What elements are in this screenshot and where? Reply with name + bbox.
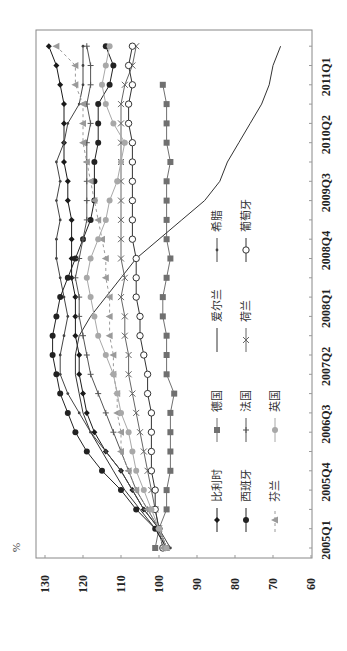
legend: 比利时德国爱尔兰希腊西班牙法国荷兰葡萄牙芬兰英国 <box>210 199 281 532</box>
x-tick-label: 2007Q2 <box>319 347 333 386</box>
series-1 <box>152 82 177 551</box>
legend-label: 英国 <box>268 390 281 412</box>
y-tick-label: 120 <box>76 575 90 593</box>
legend-item: 西班牙 <box>240 469 252 532</box>
legend-label: 葡萄牙 <box>240 199 252 232</box>
legend-item: 法国 <box>239 390 252 442</box>
y-tick-label: 70 <box>266 578 280 590</box>
y-tick-label: 80 <box>228 578 242 590</box>
y-tick-label: 100 <box>152 575 166 593</box>
y-tick-label: 110 <box>114 575 128 592</box>
legend-label: 西班牙 <box>240 469 252 502</box>
line-chart: 60708090100110120130 2005Q12005Q42006Q32… <box>0 0 347 651</box>
y-axis: 60708090100110120130 <box>38 555 318 593</box>
legend-item: 比利时 <box>211 469 223 532</box>
legend-item: 希腊 <box>210 210 223 262</box>
x-tick-label: 2010Q2 <box>319 115 333 154</box>
x-tick-label: 2005Q1 <box>319 520 333 559</box>
legend-item: 爱尔兰 <box>211 289 223 352</box>
legend-label: 荷兰 <box>240 300 252 322</box>
legend-label: 比利时 <box>211 469 223 502</box>
legend-item: 德国 <box>210 390 223 442</box>
legend-label: 法国 <box>239 390 252 412</box>
x-tick-label: 2008Q4 <box>319 231 333 270</box>
legend-item: 芬兰 <box>269 480 281 532</box>
x-tick-label: 2008Q1 <box>319 289 333 328</box>
y-unit-label: % <box>10 543 22 552</box>
plot-frame <box>36 30 312 558</box>
y-tick-label: 60 <box>304 578 318 590</box>
y-tick-label: 90 <box>190 578 204 590</box>
legend-item: 英国 <box>268 390 281 442</box>
legend-label: 希腊 <box>210 210 223 232</box>
legend-item: 荷兰 <box>240 300 252 352</box>
y-tick-label: 130 <box>38 575 52 593</box>
series-9 <box>84 43 170 551</box>
plot-border <box>36 30 312 558</box>
legend-item: 葡萄牙 <box>240 199 252 262</box>
legend-label: 爱尔兰 <box>211 289 223 322</box>
x-tick-label: 2006Q3 <box>319 405 333 444</box>
x-tick-label: 2009Q3 <box>319 173 333 212</box>
x-tick-label: 2011Q1 <box>319 57 333 96</box>
legend-label: 德国 <box>210 390 223 412</box>
x-tick-label: 2005Q4 <box>319 462 333 501</box>
x-axis: 2005Q12005Q42006Q32007Q22008Q12008Q42009… <box>309 46 333 559</box>
legend-label: 芬兰 <box>269 480 281 502</box>
chart-stage: 60708090100110120130 2005Q12005Q42006Q32… <box>0 0 347 651</box>
